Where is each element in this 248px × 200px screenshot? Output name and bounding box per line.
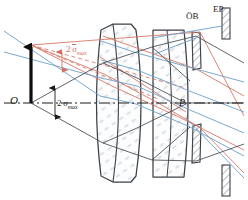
aperture-stop-lower: [192, 124, 201, 163]
label-angle-upper: 2 σmax: [66, 45, 87, 56]
label-pupil-point: P: [179, 98, 185, 108]
optical-diagram-canvas: O P ÖB EP 2 σmax 2 σmax: [0, 0, 248, 200]
angle-upper-symbol: σ: [72, 45, 76, 54]
angle-lower-subscript: max: [68, 104, 78, 110]
angle-lower-prefix: 2: [57, 98, 62, 108]
label-exit-pupil: EP: [213, 5, 224, 14]
angle-upper-prefix: 2: [66, 44, 71, 54]
exit-pupil-lower: [222, 165, 230, 196]
angle-upper-subscript: max: [77, 50, 87, 56]
angle-lower-symbol: σ: [63, 98, 67, 108]
label-object-point: O: [10, 95, 18, 106]
label-aperture-stop: ÖB: [186, 12, 199, 21]
label-angle-lower: 2 σmax: [57, 99, 78, 110]
ray-diagram-svg: [0, 0, 248, 200]
